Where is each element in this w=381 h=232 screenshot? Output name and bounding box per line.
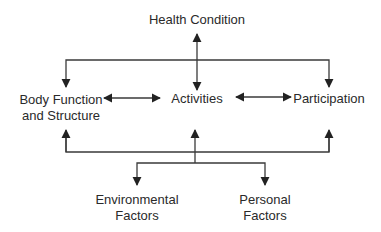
factors-branch-right — [195, 163, 265, 185]
node-label-line1: Body Function — [15, 92, 107, 108]
node-label-line2: Factors — [92, 208, 182, 224]
node-label: Health Condition — [147, 12, 247, 28]
node-label-line1: Environmental — [92, 192, 182, 208]
node-label: Activities — [167, 91, 227, 107]
node-label-line2: and Structure — [15, 108, 107, 124]
node-environmental-factors: Environmental Factors — [92, 192, 182, 224]
node-participation: Participation — [291, 91, 367, 107]
node-activities: Activities — [167, 91, 227, 107]
node-label-line1: Personal — [230, 192, 300, 208]
node-personal-factors: Personal Factors — [230, 192, 300, 224]
node-health-condition: Health Condition — [147, 12, 247, 28]
bottom-bus — [66, 131, 329, 152]
top-bus-right — [197, 60, 329, 87]
top-bus-left — [66, 60, 197, 87]
factors-branch-left — [137, 163, 195, 185]
node-body-function: Body Function and Structure — [15, 92, 107, 124]
node-label: Participation — [291, 91, 367, 107]
node-label-line2: Factors — [230, 208, 300, 224]
